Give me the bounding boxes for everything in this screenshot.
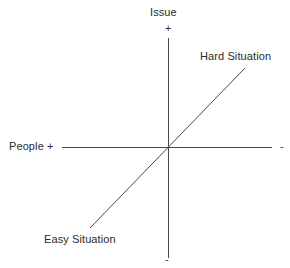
vertical-axis-title: Issue xyxy=(150,6,177,19)
annotation-hard-situation: Hard Situation xyxy=(200,50,271,63)
quadrant-diagram: Issue + People + - - Hard Situation Easy… xyxy=(0,0,290,268)
axes-and-line-graphic xyxy=(0,0,290,268)
annotation-easy-situation: Easy Situation xyxy=(44,233,116,246)
horizontal-axis-negative-sign: - xyxy=(280,140,284,153)
horizontal-axis-title: People + xyxy=(9,140,54,153)
vertical-axis-positive-sign: + xyxy=(165,22,172,35)
vertical-axis-negative-sign: - xyxy=(165,253,169,266)
